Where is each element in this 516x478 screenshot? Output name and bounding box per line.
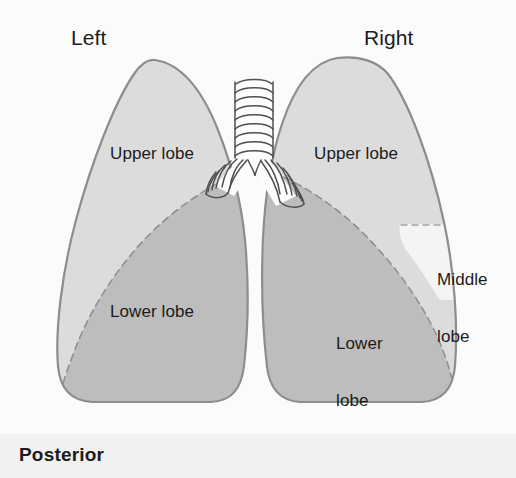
right-middle-lobe-label-line1: Middle: [437, 270, 488, 289]
left-lower-lobe-label: Lower lobe: [110, 302, 194, 321]
lung-lobes-figure: Left Right Upper lobe Lower lobe Upper l…: [0, 0, 516, 478]
right-lower-lobe-label-line1: Lower: [336, 334, 383, 353]
right-upper-lobe-label: Upper lobe: [314, 144, 398, 163]
right-middle-lobe-label: Middle lobe: [437, 232, 488, 384]
left-upper-lobe-label: Upper lobe: [110, 144, 194, 163]
trachea-tube: [236, 80, 272, 160]
right-side-label: Right: [364, 26, 414, 50]
right-lower-lobe-label-line2: lobe: [336, 391, 383, 410]
left-side-label: Left: [71, 26, 106, 50]
right-lower-lobe-label: Lower lobe: [336, 296, 383, 448]
posterior-view-label: Posterior: [19, 444, 104, 465]
right-middle-lobe-label-line2: lobe: [437, 327, 488, 346]
